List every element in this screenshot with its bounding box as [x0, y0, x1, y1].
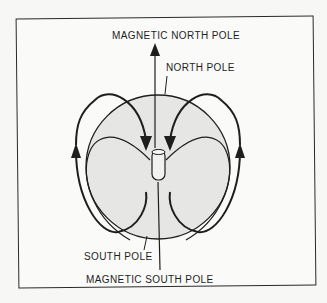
earth-magnetic-field-diagram — [0, 0, 327, 303]
label-south-pole: SOUTH POLE — [84, 252, 152, 262]
arrow-left-up-icon — [71, 143, 81, 158]
bar-magnet — [152, 150, 165, 181]
label-magnetic-south-pole: MAGNETIC SOUTH POLE — [86, 275, 214, 285]
north-pole-leader — [165, 76, 167, 94]
label-north-pole: NORTH POLE — [166, 63, 235, 73]
arrow-right-up-icon — [235, 143, 245, 158]
label-magnetic-north-pole: MAGNETIC NORTH POLE — [112, 31, 240, 41]
